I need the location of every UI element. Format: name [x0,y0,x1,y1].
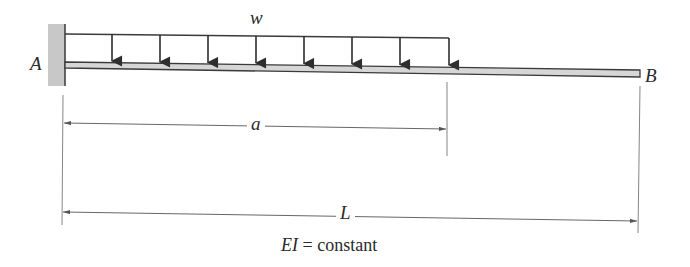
load-top-line [65,34,449,38]
label-constant: = constant [298,235,377,255]
label-load-w: w [250,8,263,27]
load-arrows [112,35,449,66]
label-dimension-L: L [336,203,355,222]
label-free-end-B: B [645,66,657,85]
label-dimension-a: a [247,114,265,133]
extension-line-right [638,86,640,233]
beam [65,62,640,77]
label-fixed-end-A: A [30,54,42,73]
beam-diagram [0,0,690,267]
extension-line-left [62,95,63,225]
fixed-support [48,24,65,86]
label-ei: EI [281,235,298,255]
label-ei-constant: EI = constant [281,236,377,254]
